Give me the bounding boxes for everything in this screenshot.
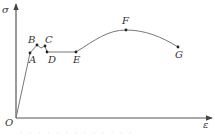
point-f: [125, 29, 128, 32]
stress-strain-curve: [16, 30, 178, 118]
point-label-g: G: [175, 49, 183, 60]
point-labels: ABCDEFG: [27, 15, 183, 65]
stress-strain-diagram: ABCDEFG σ ε O: [0, 0, 215, 137]
point-label-f: F: [121, 15, 130, 26]
origin-label: O: [5, 117, 13, 128]
point-c: [44, 45, 47, 48]
y-axis-label: σ: [2, 4, 10, 15]
x-axis-label: ε: [203, 119, 208, 130]
point-b: [36, 44, 39, 47]
point-label-c: C: [45, 34, 53, 45]
figure-caption: · · · · · · · · · · · · ·: [20, 129, 200, 137]
point-label-a: A: [28, 54, 36, 65]
point-d: [46, 51, 49, 54]
point-label-d: D: [47, 54, 56, 65]
point-g: [177, 46, 180, 49]
point-label-e: E: [72, 54, 81, 65]
point-label-b: B: [27, 34, 35, 45]
point-e: [75, 51, 78, 54]
